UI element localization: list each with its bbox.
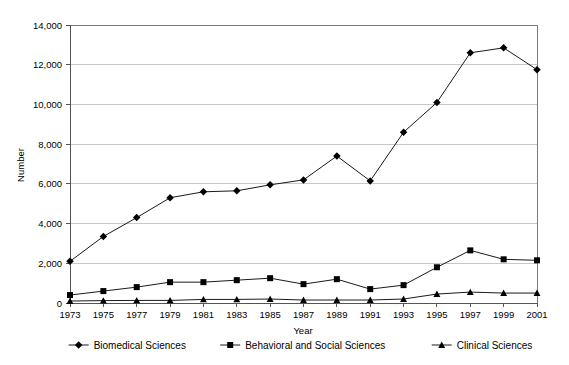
square-marker-icon: [401, 282, 407, 288]
legend-label: Clinical Sciences: [457, 340, 533, 351]
diamond-marker-icon: [333, 152, 341, 160]
y-tick-label: 4,000: [38, 218, 62, 229]
diamond-marker-icon: [533, 66, 541, 74]
y-tick-labels: 02,0004,0006,0008,00010,00012,00014,000: [33, 20, 62, 309]
series-group: [66, 44, 541, 304]
x-tick-label: 1991: [360, 309, 381, 320]
legend-label: Biomedical Sciences: [94, 340, 186, 351]
x-tick-label: 1987: [293, 309, 314, 320]
diamond-marker-icon: [166, 194, 174, 202]
series-2: [67, 247, 540, 298]
x-tick-label: 1975: [93, 309, 114, 320]
square-marker-icon: [67, 292, 73, 298]
x-tick-label: 1997: [460, 309, 481, 320]
square-marker-icon: [100, 288, 106, 294]
x-tick-label: 1995: [426, 309, 447, 320]
square-marker-icon: [234, 277, 240, 283]
square-marker-icon: [200, 279, 206, 285]
legend-item-2[interactable]: Behavioral and Social Sciences: [220, 340, 385, 351]
square-marker-icon: [501, 256, 507, 262]
x-tick-label: 1989: [326, 309, 347, 320]
diamond-marker-icon: [66, 258, 74, 266]
y-axis-label: Number: [15, 148, 26, 182]
square-marker-icon: [534, 257, 540, 263]
diamond-marker-icon: [133, 214, 141, 222]
x-axis-label: Year: [293, 325, 312, 336]
y-tick-label: 12,000: [33, 59, 62, 70]
y-tick-label: 8,000: [38, 139, 62, 150]
x-tick-marks: [70, 303, 537, 307]
x-tick-label: 1977: [126, 309, 147, 320]
diamond-marker-icon: [75, 341, 83, 349]
y-tick-label: 6,000: [38, 178, 62, 189]
square-marker-icon: [367, 286, 373, 292]
x-tick-labels: 1973197519771979198119831985198719891991…: [59, 309, 547, 320]
series-line: [70, 48, 537, 261]
x-tick-label: 1999: [493, 309, 514, 320]
square-marker-icon: [227, 342, 233, 348]
legend-item-1[interactable]: Biomedical Sciences: [69, 340, 186, 351]
diamond-marker-icon: [500, 44, 508, 52]
square-marker-icon: [167, 279, 173, 285]
line-chart: 02,0004,0006,0008,00010,00012,00014,000 …: [0, 0, 569, 365]
diamond-marker-icon: [233, 187, 241, 195]
y-tick-label: 10,000: [33, 99, 62, 110]
square-marker-icon: [267, 275, 273, 281]
gridlines: [70, 25, 537, 263]
x-tick-label: 1973: [59, 309, 80, 320]
y-tick-label: 14,000: [33, 20, 62, 31]
square-marker-icon: [301, 281, 307, 287]
legend-label: Behavioral and Social Sciences: [245, 340, 385, 351]
x-tick-label: 1983: [226, 309, 247, 320]
x-tick-label: 2001: [526, 309, 547, 320]
x-tick-label: 1985: [260, 309, 281, 320]
legend-item-3[interactable]: Clinical Sciences: [432, 340, 533, 351]
chart-legend: Biomedical SciencesBehavioral and Social…: [69, 340, 533, 351]
diamond-marker-icon: [200, 188, 208, 196]
x-tick-label: 1993: [393, 309, 414, 320]
series-line: [70, 250, 537, 295]
diamond-marker-icon: [467, 49, 475, 57]
series-3: [67, 289, 541, 304]
square-marker-icon: [434, 264, 440, 270]
y-tick-label: 2,000: [38, 258, 62, 269]
square-marker-icon: [134, 284, 140, 290]
diamond-marker-icon: [100, 233, 108, 241]
diamond-marker-icon: [300, 176, 308, 184]
diamond-marker-icon: [266, 181, 274, 189]
y-tick-label: 0: [57, 298, 62, 309]
square-marker-icon: [467, 247, 473, 253]
x-tick-label: 1981: [193, 309, 214, 320]
square-marker-icon: [334, 276, 340, 282]
x-tick-label: 1979: [160, 309, 181, 320]
series-1: [66, 44, 541, 265]
chart-container: 02,0004,0006,0008,00010,00012,00014,000 …: [0, 0, 569, 365]
